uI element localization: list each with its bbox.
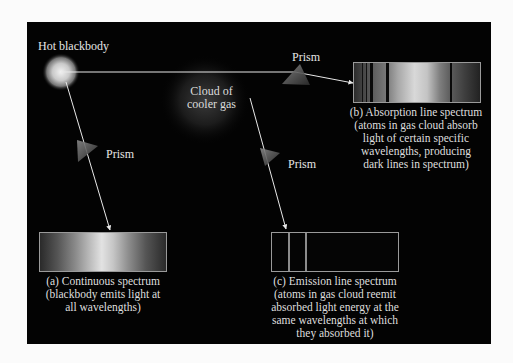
continuous-caption-line: all wavelengths)	[27, 301, 183, 314]
absorption-caption-title: (b) Absorption line spectrum	[336, 106, 491, 119]
prism-top-label: Prism	[292, 51, 320, 64]
hot-blackbody-label: Hot blackbody	[38, 40, 109, 53]
absorption-spectrum	[353, 62, 481, 103]
continuous-spectrum	[39, 232, 167, 272]
cloud-label: Cloud of cooler gas	[187, 85, 236, 111]
emission-line-1	[288, 233, 290, 271]
ray-to-continuous	[66, 82, 110, 230]
prism-middle-shape	[260, 148, 280, 166]
emission-caption-line: (atoms in gas cloud reemit	[255, 288, 415, 301]
continuous-caption: (a) Continuous spectrum (blackbody emits…	[27, 275, 183, 314]
emission-caption: (c) Emission line spectrum (atoms in gas…	[255, 275, 415, 340]
emission-caption-title: (c) Emission line spectrum	[255, 275, 415, 288]
absorption-caption-line: wavelengths, producing	[336, 145, 491, 158]
continuous-caption-line: (blackbody emits light at	[27, 288, 183, 301]
emission-caption-line: they absorbed it)	[255, 327, 415, 340]
prism-left-label: Prism	[106, 148, 134, 161]
prism-middle-label: Prism	[288, 158, 316, 171]
prism-left-shape	[77, 140, 98, 162]
absorption-caption-line: dark lines in spectrum)	[336, 158, 491, 171]
emission-line-2	[305, 233, 307, 271]
ray-to-emission	[250, 98, 286, 229]
continuous-caption-title: (a) Continuous spectrum	[27, 275, 183, 288]
diagram-panel: Hot blackbody Cloud of cooler gas Prism …	[27, 22, 491, 344]
emission-caption-line: absorbed light energy at the	[255, 301, 415, 314]
absorption-caption-line: light of certain specific	[336, 132, 491, 145]
emission-spectrum	[271, 232, 399, 272]
absorption-caption: (b) Absorption line spectrum (atoms in g…	[336, 106, 491, 171]
absorption-caption-line: (atoms in gas cloud absorb	[336, 119, 491, 132]
emission-caption-line: same wavelengths at which	[255, 314, 415, 327]
cloud-label-line-2: cooler gas	[187, 98, 236, 111]
